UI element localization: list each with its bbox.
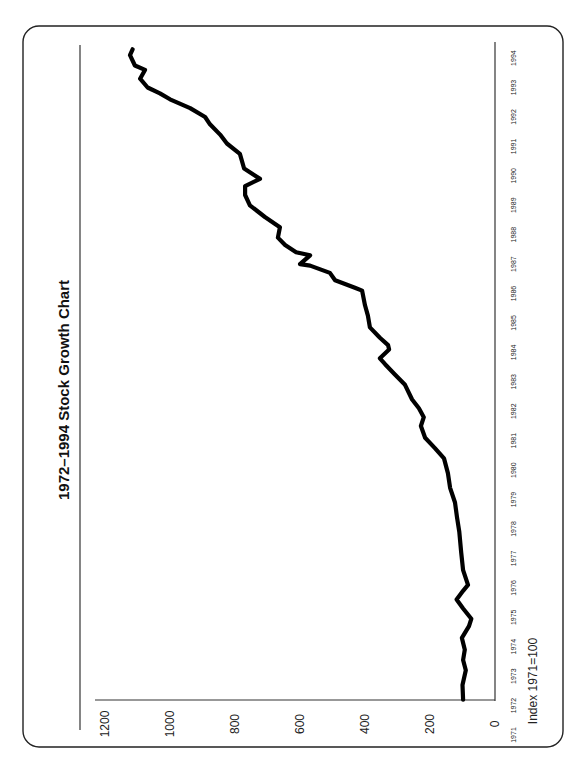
x-tick-label: 1987	[510, 256, 517, 272]
y-tick-label: 800	[228, 714, 242, 734]
x-tick-label: 1990	[510, 168, 517, 184]
chart-title: 1972–1994 Stock Growth Chart	[55, 280, 72, 500]
stock-growth-chart: 1972–1994 Stock Growth Chart 02004006008…	[0, 0, 579, 769]
x-tick-label: 1973	[510, 668, 517, 684]
x-tick-label: 1979	[510, 492, 517, 508]
x-tick-label: 1978	[510, 521, 517, 537]
y-tick-label: 400	[358, 714, 372, 734]
x-tick-label: 1984	[510, 345, 517, 361]
x-tick-label: 1983	[510, 374, 517, 390]
x-tick-label: 1971	[510, 727, 517, 743]
stock-index-line	[130, 49, 471, 699]
y-tick-label: 0	[488, 720, 502, 727]
y-axis-ticks: 020040060080010001200	[98, 710, 502, 737]
y-tick-label: 1000	[163, 710, 177, 737]
x-tick-label: 1977	[510, 551, 517, 567]
x-tick-label: 1985	[510, 315, 517, 331]
x-tick-label: 1992	[510, 109, 517, 125]
x-axis-ticks: 1971197219731974197519761977197819791980…	[510, 50, 517, 743]
x-tick-label: 1991	[510, 139, 517, 155]
x-tick-label: 1975	[510, 609, 517, 625]
x-tick-label: 1972	[510, 698, 517, 714]
x-tick-label: 1989	[510, 197, 517, 213]
x-tick-label: 1980	[510, 462, 517, 478]
y-tick-label: 600	[293, 714, 307, 734]
y-tick-label: 1200	[98, 710, 112, 737]
x-tick-label: 1986	[510, 286, 517, 302]
chart-frame	[23, 26, 563, 747]
x-tick-label: 1974	[510, 639, 517, 655]
x-tick-label: 1993	[510, 80, 517, 96]
x-tick-label: 1982	[510, 403, 517, 419]
y-tick-label: 200	[423, 714, 437, 734]
x-tick-label: 1988	[510, 227, 517, 243]
x-tick-label: 1976	[510, 580, 517, 596]
x-tick-label: 1994	[510, 50, 517, 66]
x-tick-label: 1981	[510, 433, 517, 449]
index-note: Index 1971=100	[526, 637, 540, 724]
